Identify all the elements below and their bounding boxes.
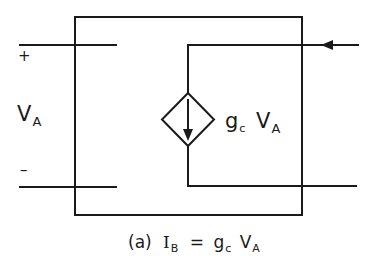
source-current-arrow-icon bbox=[183, 129, 193, 141]
caption-gain-subscript: c bbox=[225, 242, 231, 255]
control-var-subscript: A bbox=[271, 121, 280, 136]
dependent-source-gain-label: gc VA bbox=[225, 111, 280, 132]
port-a-plus-label: + bbox=[18, 49, 31, 64]
caption-equals: = bbox=[190, 232, 204, 252]
figure-caption: (a) IB = gc VA bbox=[128, 234, 260, 251]
control-var-main: V bbox=[256, 109, 270, 133]
circuit-diagram bbox=[0, 0, 377, 270]
gain-main: g bbox=[225, 109, 238, 133]
caption-lhs-main: I bbox=[163, 232, 170, 252]
caption-var-main: V bbox=[240, 232, 252, 252]
port-a-minus-label: – bbox=[20, 163, 28, 178]
port-b-top-wire bbox=[188, 45, 359, 93]
voltage-main: V bbox=[17, 102, 31, 126]
voltage-subscript: A bbox=[32, 114, 41, 129]
port-b-current-arrow-icon bbox=[321, 40, 333, 50]
gain-subscript: c bbox=[239, 122, 245, 135]
port-a-voltage-label: VA bbox=[17, 104, 41, 125]
caption-gain-main: g bbox=[213, 232, 224, 252]
caption-var-subscript: A bbox=[252, 242, 260, 255]
port-b-bottom-wire bbox=[188, 146, 357, 186]
caption-lhs-subscript: B bbox=[171, 242, 179, 255]
caption-prefix: (a) bbox=[128, 232, 152, 252]
